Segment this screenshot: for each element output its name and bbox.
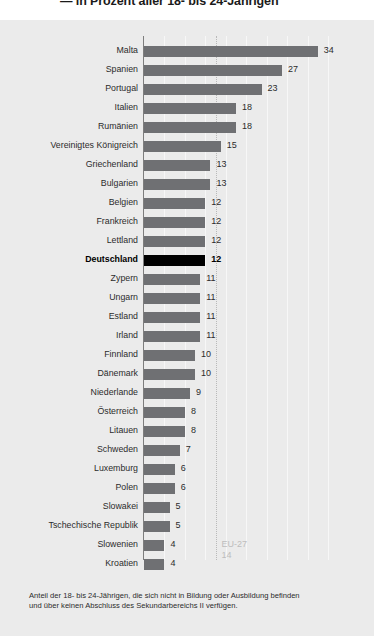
table-row: Österreich8 — [0, 403, 374, 422]
bar — [144, 46, 318, 57]
bar-category-label: Estland — [109, 311, 138, 322]
table-row: Zypern11 — [0, 270, 374, 289]
bar-category-label: Griechenland — [86, 159, 138, 170]
bar — [144, 407, 185, 418]
table-row: Dänemark10 — [0, 365, 374, 384]
bar-value-label: 7 — [186, 444, 191, 455]
bar-value-label: 4 — [170, 558, 175, 569]
table-row: Tschechische Republik5 — [0, 517, 374, 536]
bar-category-label: Ungarn — [109, 292, 138, 303]
bar-value-label: 12 — [211, 254, 221, 265]
bar — [144, 236, 205, 247]
bar-category-label: Rumänien — [98, 121, 138, 132]
bar-category-label: Malta — [116, 45, 138, 56]
bar — [144, 65, 282, 76]
bar-value-label: 18 — [242, 121, 252, 132]
bar-value-label: 12 — [211, 216, 221, 227]
table-row: Rumänien18 — [0, 118, 374, 137]
chart-panel: EU-27 14 Malta34Spanien27Portugal23Itali… — [0, 20, 374, 570]
table-row: Belgien12 — [0, 194, 374, 213]
bar — [144, 217, 205, 228]
table-row: Bulgarien13 — [0, 175, 374, 194]
footnote-line-1: Anteil der 18- bis 24-Jährigen, die sich… — [29, 591, 349, 601]
footnote-panel: Anteil der 18- bis 24-Jährigen, die sich… — [0, 570, 374, 636]
bar — [144, 274, 200, 285]
table-row: Italien18 — [0, 99, 374, 118]
bar-category-label: Schweden — [97, 444, 138, 455]
bar — [144, 426, 185, 437]
bar-value-label: 6 — [181, 463, 186, 474]
bar-category-label: Kroatien — [105, 558, 138, 569]
table-row: Vereinigtes Königreich15 — [0, 137, 374, 156]
table-row: Niederlande9 — [0, 384, 374, 403]
table-row: Slowakei5 — [0, 498, 374, 517]
bar — [144, 179, 210, 190]
table-row: Spanien27 — [0, 61, 374, 80]
bar-category-label: Österreich — [97, 406, 138, 417]
bar-value-label: 8 — [191, 406, 196, 417]
bar-category-label: Polen — [116, 482, 139, 493]
bar-value-label: 5 — [176, 501, 181, 512]
bar — [144, 350, 195, 361]
bar — [144, 103, 236, 114]
bar — [144, 540, 164, 551]
bar-value-label: 15 — [227, 140, 237, 151]
table-row: Litauen8 — [0, 422, 374, 441]
bar-value-label: 27 — [288, 64, 298, 75]
bar-category-label: Luxemburg — [94, 463, 138, 474]
bar-value-label: 34 — [324, 45, 334, 56]
table-row: Estland11 — [0, 308, 374, 327]
bar-value-label: 8 — [191, 425, 196, 436]
table-row: Luxemburg6 — [0, 460, 374, 479]
bar-value-label: 10 — [201, 368, 211, 379]
bar-category-label: Tschechische Republik — [49, 520, 138, 531]
table-row: Ungarn11 — [0, 289, 374, 308]
bar-category-label: Spanien — [106, 64, 138, 75]
bar-value-label: 11 — [206, 311, 215, 322]
bar-category-label: Finnland — [104, 349, 138, 360]
bar-category-label: Deutschland — [85, 254, 138, 265]
bar-category-label: Italien — [115, 102, 138, 113]
bar-category-label: Frankreich — [96, 216, 138, 227]
table-row: Deutschland12 — [0, 251, 374, 270]
bar — [144, 369, 195, 380]
table-row: Finnland10 — [0, 346, 374, 365]
table-row: Lettland12 — [0, 232, 374, 251]
bar-category-label: Irland — [116, 330, 138, 341]
bar — [144, 502, 170, 513]
table-row: Malta34 — [0, 42, 374, 61]
bar — [144, 483, 175, 494]
bar-category-label: Litauen — [109, 425, 138, 436]
table-row: Schweden7 — [0, 441, 374, 460]
bar-category-label: Slowenien — [97, 539, 138, 550]
chart-title: — in Prozent aller 18- bis 24-Jährigen — [60, 0, 279, 8]
bar-value-label: 5 — [176, 520, 181, 531]
bar-value-label: 13 — [216, 178, 226, 189]
bar-category-label: Lettland — [107, 235, 138, 246]
bar-category-label: Dänemark — [97, 368, 138, 379]
table-row: Polen6 — [0, 479, 374, 498]
bar — [144, 198, 205, 209]
bar — [144, 160, 210, 171]
bar-value-label: 9 — [196, 387, 201, 398]
bar — [144, 122, 236, 133]
bar — [144, 141, 221, 152]
bar — [144, 388, 190, 399]
bar-value-label: 10 — [201, 349, 211, 360]
bar — [144, 559, 164, 570]
bar-value-label: 6 — [181, 482, 186, 493]
bar-category-label: Portugal — [105, 83, 138, 94]
chart-title-bar: — in Prozent aller 18- bis 24-Jährigen — [0, 0, 374, 18]
bar-value-label: 12 — [211, 235, 221, 246]
bar-value-label: 4 — [170, 539, 175, 550]
bar-value-label: 11 — [206, 330, 215, 341]
footnote-line-2: und über keinen Abschluss des Sekundarbe… — [29, 601, 349, 611]
bar-value-label: 11 — [206, 273, 215, 284]
bar-value-label: 12 — [211, 197, 221, 208]
footnote-text: Anteil der 18- bis 24-Jährigen, die sich… — [29, 591, 349, 610]
bar-category-label: Niederlande — [91, 387, 138, 398]
bar-value-label: 18 — [242, 102, 252, 113]
bar-value-label: 13 — [216, 159, 226, 170]
table-row: Slowenien4 — [0, 536, 374, 555]
bar-category-label: Slowakei — [103, 501, 138, 512]
